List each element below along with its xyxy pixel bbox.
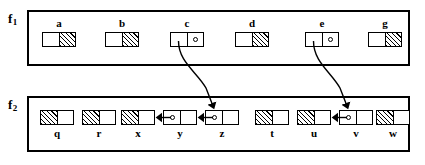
cell-z [205,110,239,125]
cell-q [40,110,74,125]
cell-y-right-half [180,111,196,124]
cell-label-v: v [339,128,373,139]
cell-c-pointer-dot-icon [187,33,203,46]
cell-label-q: q [40,128,74,139]
cell-label-e: e [305,18,339,29]
cell-label-r: r [82,128,116,139]
cell-label-c: c [170,18,204,29]
cell-q-right-half [57,111,73,124]
cell-label-x: x [121,128,155,139]
cell-label-w: w [376,128,410,139]
frame-label-f1-subscript: 1 [12,17,17,27]
cell-w [376,110,410,125]
cell-e [305,32,339,47]
cell-d [235,32,269,47]
cell-a [42,32,76,47]
cell-b-left-half [106,33,122,46]
cell-d-right-half [252,33,268,46]
cell-c-left-half [171,33,187,46]
cell-label-d: d [235,18,269,29]
cell-x [121,110,155,125]
cell-t-left-half [256,111,272,124]
cell-r [82,110,116,125]
cell-e-pointer-dot-icon [322,33,338,46]
cell-a-right-half [59,33,75,46]
cell-x-left-half [122,111,138,124]
cell-r-right-half [99,111,115,124]
cell-z-right-half [222,111,238,124]
cell-g-right-half [385,33,401,46]
cell-label-b: b [105,18,139,29]
cell-g-left-half [369,33,385,46]
cell-u-right-half [314,111,330,124]
cell-b-right-half [122,33,138,46]
cell-e-left-half [306,33,322,46]
cell-label-g: g [368,18,402,29]
cell-r-left-half [83,111,99,124]
cell-v-pointer-dot-icon [340,111,356,124]
cell-u-left-half [298,111,314,124]
cell-g [368,32,402,47]
cell-label-a: a [42,18,76,29]
diagram-canvas: f1 f2 a b c d e g q r [0,0,425,165]
frame-label-f2: f2 [8,98,17,113]
frame-label-f1: f1 [8,12,17,27]
cell-q-left-half [41,111,57,124]
cell-label-u: u [297,128,331,139]
cell-z-pointer-dot-icon [206,111,222,124]
cell-w-left-half [377,111,393,124]
frame-box-f1 [27,10,410,66]
cell-d-left-half [236,33,252,46]
cell-a-left-half [43,33,59,46]
cell-v [339,110,373,125]
cell-label-y: y [163,128,197,139]
cell-t-right-half [272,111,288,124]
cell-y-pointer-dot-icon [164,111,180,124]
cell-b [105,32,139,47]
cell-t [255,110,289,125]
cell-x-right-half [138,111,154,124]
cell-u [297,110,331,125]
cell-y [163,110,197,125]
frame-label-f2-subscript: 2 [12,103,17,113]
cell-w-right-half [393,111,409,124]
cell-label-t: t [255,128,289,139]
cell-c [170,32,204,47]
cell-v-right-half [356,111,372,124]
cell-label-z: z [205,128,239,139]
